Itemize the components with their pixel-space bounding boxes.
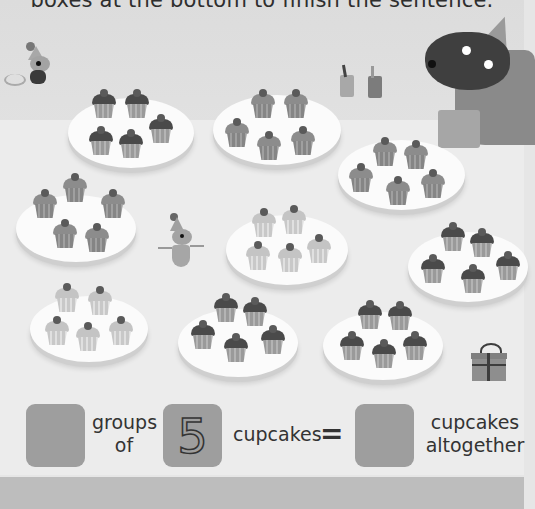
cupcake [64,172,86,202]
cupcake [110,315,132,345]
gift-ribbon [487,353,490,381]
cupcakes-label: cupcakes [233,423,323,446]
mouse-scarf-illustration [18,42,58,82]
mouse-eye [180,234,184,238]
gift-box-icon [472,347,506,379]
bear-eye [462,46,471,55]
cupcake [150,113,172,143]
result-altogether-label: altogether [425,434,525,457]
cupcake [308,233,330,263]
cupcake [93,88,115,118]
mouse-eye [36,61,41,66]
cupcake [350,162,372,192]
cupcake [387,175,409,205]
cupcake [359,299,381,329]
cupcake [422,168,444,198]
cupcake [442,221,464,251]
cupcake [471,227,493,257]
equals-sign: = [320,417,343,450]
groups-count-box[interactable] [26,404,85,467]
cupcake [46,315,68,345]
group-size-box[interactable]: 5 [163,404,222,467]
cupcake [86,222,108,252]
cupcake [405,139,427,169]
dancing-mouse-illustration [160,213,200,283]
cupcake [253,207,275,237]
cupcake [56,282,78,312]
groups-of-label: groups of [92,411,156,457]
cupcake [54,218,76,248]
mouse-arm [190,245,204,247]
tutu-dress [172,245,190,267]
dotted-five-trace: 5 [163,404,222,467]
cupcake [120,128,142,158]
gift-icon [438,110,480,148]
cupcake [252,88,274,118]
cupcake [89,285,111,315]
footer-band [0,477,524,509]
mouse-arm [158,247,172,249]
bear-illustration [400,20,524,135]
result-cupcakes-label: cupcakes [425,411,525,434]
cupcake [126,88,148,118]
bear-head [425,32,510,90]
total-cupcakes-box[interactable] [355,404,414,467]
juice-box [340,75,354,97]
cupcake [258,130,280,160]
juice-box [368,76,382,98]
cupcake [422,253,444,283]
cupcake [77,321,99,351]
cupcake [279,242,301,272]
cupcake [244,296,266,326]
bear-nose [428,60,436,68]
cupcake [497,250,519,280]
groups-label: groups [92,411,156,434]
cupcake [462,263,484,293]
cupcake [341,330,363,360]
of-label: of [92,434,156,457]
gift-ribbon [472,364,506,366]
cupcake [225,332,247,362]
cupcake [247,240,269,270]
cupcake [292,125,314,155]
cupcake [215,292,237,322]
cupcake [389,300,411,330]
bear-eye [484,60,493,69]
cupcake [404,330,426,360]
cupcake [373,338,395,368]
cupcake [226,117,248,147]
cupcake [285,88,307,118]
cupcake [102,188,124,218]
mouse-tail [4,74,26,86]
cupcake [34,188,56,218]
cupcake [192,319,214,349]
cupcake [374,136,396,166]
cupcake [90,125,112,155]
cupcake [262,324,284,354]
altogether-label: cupcakes altogether [425,411,525,457]
straw [371,66,374,78]
cupcake [283,204,305,234]
instruction-text: boxes at the bottom to finish the senten… [0,0,524,12]
scarf [30,70,46,84]
